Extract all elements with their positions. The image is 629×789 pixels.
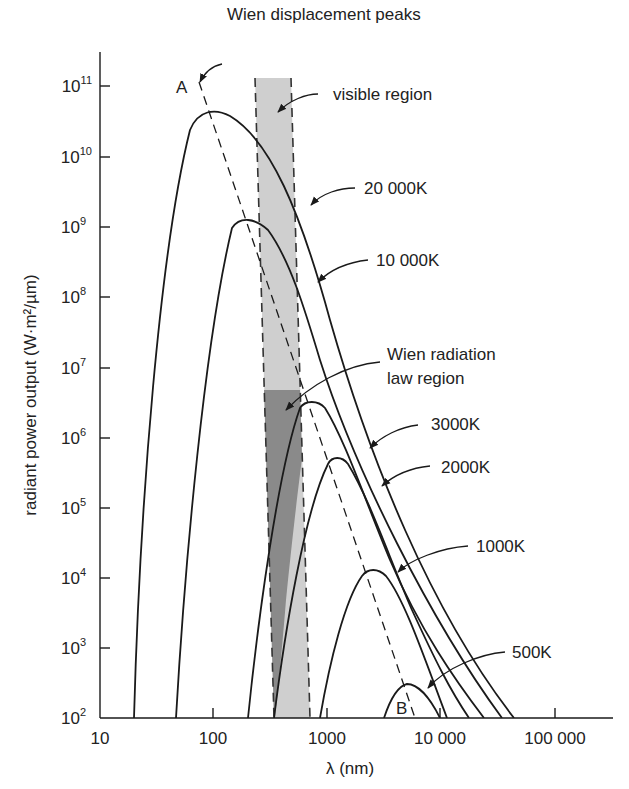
svg-text:1000: 1000: [308, 729, 346, 748]
label-1000k: 1000K: [476, 537, 526, 556]
label-3000k: 3000K: [431, 415, 481, 434]
wien-peaks-label: Wien displacement peaks: [227, 5, 421, 24]
visible-region-label: visible region: [333, 85, 432, 104]
label-10000k: 10 000K: [376, 251, 440, 270]
svg-text:100 000: 100 000: [524, 729, 585, 748]
arrow-1000k: [398, 546, 468, 572]
arrow-10000k: [318, 260, 368, 282]
y-tick-labels: 102 103 104 105 106 107 108 109 1010 101…: [61, 74, 92, 728]
wien-peaks-arrow: [200, 64, 222, 82]
blackbody-radiation-chart: 102 103 104 105 106 107 108 109 1010 101…: [0, 0, 629, 789]
svg-text:100: 100: [199, 729, 227, 748]
svg-text:1011: 1011: [62, 74, 92, 96]
svg-text:109: 109: [61, 215, 86, 237]
svg-text:10 000: 10 000: [414, 729, 466, 748]
point-b-label: B: [396, 699, 407, 718]
svg-text:102: 102: [61, 706, 86, 728]
x-axis-title: λ (nm): [326, 759, 374, 778]
wien-law-label-2: law region: [387, 369, 465, 388]
wien-law-label-1: Wien radiation: [387, 345, 496, 364]
label-500k: 500K: [512, 643, 552, 662]
svg-text:108: 108: [61, 285, 86, 307]
arrow-2000k: [382, 466, 430, 486]
point-a-label: A: [176, 78, 188, 97]
svg-text:10: 10: [91, 729, 110, 748]
label-2000k: 2000K: [441, 458, 491, 477]
label-20000k: 20 000K: [364, 179, 428, 198]
svg-text:106: 106: [61, 426, 86, 448]
svg-text:103: 103: [61, 636, 86, 658]
svg-text:107: 107: [61, 356, 86, 378]
arrow-500k: [428, 652, 505, 688]
curve-500k: [384, 684, 440, 718]
svg-text:105: 105: [61, 496, 86, 518]
axes: [100, 52, 613, 718]
arrow-3000k: [370, 425, 418, 448]
x-tick-labels: 10 100 1000 10 000 100 000: [91, 729, 586, 748]
svg-text:104: 104: [61, 566, 86, 588]
y-axis-title: radiant power output (W·m²/µm): [21, 274, 40, 515]
arrow-20000k: [311, 188, 355, 205]
svg-text:1010: 1010: [61, 145, 92, 167]
